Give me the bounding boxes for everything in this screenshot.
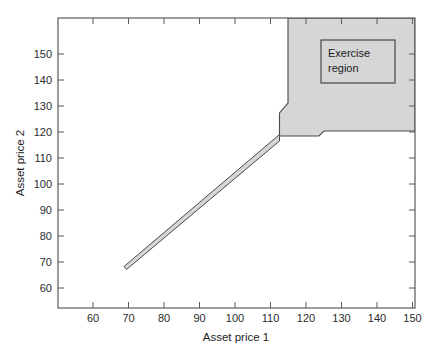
y-tick-label: 150 xyxy=(34,48,52,60)
exercise-region-chart: Exercise region xyxy=(0,0,441,364)
y-tick-label: 120 xyxy=(34,126,52,138)
y-tick-label: 90 xyxy=(40,204,52,216)
y-tick-label: 100 xyxy=(34,178,52,190)
x-axis-title: Asset price 1 xyxy=(203,331,269,343)
x-tick-label: 120 xyxy=(297,312,315,324)
y-tick-label: 70 xyxy=(40,256,52,268)
y-tick-label: 60 xyxy=(40,282,52,294)
y-tick-label: 140 xyxy=(34,74,52,86)
x-tick-label: 150 xyxy=(403,312,421,324)
y-axis-title: Asset price 2 xyxy=(14,130,26,196)
x-tick-label: 110 xyxy=(262,312,280,324)
x-tick-label: 130 xyxy=(332,312,350,324)
x-tick-label: 90 xyxy=(193,312,205,324)
x-tick-label: 70 xyxy=(122,312,134,324)
exercise-region-label-line2: region xyxy=(328,62,359,74)
x-tick-label: 60 xyxy=(87,312,99,324)
exercise-region-label-line1: Exercise xyxy=(328,47,370,59)
x-tick-label: 80 xyxy=(158,312,170,324)
y-tick-label: 130 xyxy=(34,100,52,112)
y-tick-label: 110 xyxy=(34,152,52,164)
figure-container: Exercise region xyxy=(0,0,441,364)
x-tick-label: 140 xyxy=(368,312,386,324)
x-tick-label: 100 xyxy=(226,312,244,324)
y-tick-label: 80 xyxy=(40,230,52,242)
